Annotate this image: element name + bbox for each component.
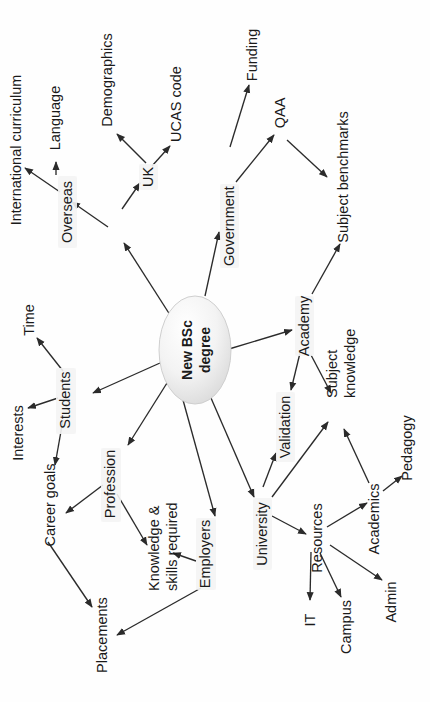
node-admin[interactable]: Admin [383, 581, 399, 622]
node-career-goals-label: Career goals [42, 463, 58, 546]
node-demographics-label: Demographics [99, 33, 115, 127]
node-government[interactable]: Government [220, 184, 239, 268]
edge-university-resources [272, 516, 306, 534]
edge-center-government [205, 232, 219, 296]
node-demographics[interactable]: Demographics [99, 33, 115, 127]
node-subject-knowledge-label-line1: Subject [324, 350, 340, 398]
edge-uk-demographics [117, 134, 146, 163]
node-admin-label: Admin [383, 581, 399, 622]
mindmap-svg: New BSc degree International curriculum … [0, 0, 430, 702]
node-knowledge-skills-label-line2: skills required [164, 502, 180, 591]
edge-government-qaa [236, 135, 274, 182]
node-interests[interactable]: Interests [10, 405, 26, 461]
edge-center-market [124, 243, 172, 318]
edge-university-validation [263, 453, 276, 487]
node-language[interactable]: Language [47, 86, 63, 151]
node-career-goals[interactable]: Career goals [42, 463, 58, 546]
node-academics-label: Academics [366, 484, 382, 555]
node-overseas-label: Overseas [59, 181, 75, 243]
edge-qaa-subject-benchmarks [287, 140, 327, 177]
node-language-label: Language [47, 86, 63, 151]
node-subject-knowledge[interactable]: Subject knowledge [324, 329, 358, 398]
node-subject-benchmarks[interactable]: Subject benchmarks [335, 111, 351, 242]
edge-academics-subject-knowledge [344, 429, 369, 483]
node-employers-label: Employers [197, 520, 213, 589]
node-profession[interactable]: Profession [101, 448, 121, 522]
node-knowledge-skills-label-line1: Knowledge & [146, 505, 162, 591]
node-interests-label: Interests [10, 405, 26, 461]
node-ucas-code[interactable]: UCAS code [168, 66, 184, 142]
node-funding-label: Funding [244, 29, 260, 81]
node-government-label: Government [221, 186, 237, 266]
node-profession-label: Profession [102, 450, 118, 519]
edge-center-profession [128, 383, 167, 445]
node-resources-label: Resources [309, 503, 325, 572]
edge-profession-knowledge-skills [117, 494, 147, 545]
node-academy[interactable]: Academy [295, 295, 314, 356]
edge-center-academy [229, 330, 292, 349]
node-uk-label: UK [140, 167, 156, 187]
edge-overseas-intl-curriculum [25, 168, 60, 192]
node-time[interactable]: Time [21, 304, 37, 336]
node-university-label: University [254, 501, 270, 565]
node-validation-label: Validation [277, 396, 293, 459]
node-campus[interactable]: Campus [338, 600, 354, 654]
mindmap-canvas: New BSc degree International curriculum … [0, 0, 430, 702]
edge-academy-validation [291, 353, 300, 390]
center-node-label-line1: New BSc [179, 320, 195, 380]
node-pedagogy[interactable]: Pedagogy [399, 415, 415, 481]
node-subject-benchmarks-label: Subject benchmarks [335, 111, 351, 242]
edge-uk-ucas-code [152, 146, 170, 166]
node-subject-knowledge-label-line2: knowledge [342, 329, 358, 398]
center-node-new-bsc-degree[interactable]: New BSc degree [159, 296, 231, 404]
node-campus-label: Campus [338, 600, 354, 654]
edge-resources-academics [327, 503, 367, 527]
node-students-label: Students [57, 371, 73, 428]
node-overseas[interactable]: Overseas [58, 176, 77, 248]
node-qaa-label: QAA [272, 97, 288, 128]
center-node-label-line2: degree [197, 327, 213, 373]
node-academics[interactable]: Academics [366, 484, 382, 555]
node-students[interactable]: Students [56, 368, 76, 434]
node-funding[interactable]: Funding [244, 29, 260, 81]
edge-academy-subject-benchmarks [312, 244, 340, 294]
node-uk[interactable]: UK [139, 164, 158, 190]
node-placements[interactable]: Placements [94, 597, 110, 673]
edge-center-employers [183, 400, 215, 516]
node-ucas-code-label: UCAS code [168, 66, 184, 142]
node-university[interactable]: University [253, 498, 272, 570]
edge-students-time [37, 338, 63, 371]
node-pedagogy-label: Pedagogy [399, 415, 415, 481]
node-international-curriculum[interactable]: International curriculum [8, 75, 24, 226]
center-oval-shape [159, 296, 231, 404]
edge-employers-placements [117, 588, 201, 635]
edge-market-overseas [72, 202, 108, 227]
node-resources[interactable]: Resources [309, 503, 325, 572]
edge-profession-career-goals [66, 485, 103, 513]
node-knowledge-skills[interactable]: Knowledge & skills required [146, 502, 180, 591]
edge-students-interests [28, 398, 58, 408]
node-validation[interactable]: Validation [276, 392, 295, 462]
edge-market-uk [122, 183, 140, 209]
node-qaa[interactable]: QAA [272, 97, 288, 128]
edge-career-goals-placements [48, 542, 92, 607]
node-international-curriculum-label: International curriculum [8, 75, 24, 226]
node-academy-label: Academy [296, 295, 312, 356]
node-it-label: IT [302, 613, 318, 626]
node-it[interactable]: IT [302, 613, 318, 626]
node-placements-label: Placements [94, 597, 110, 673]
node-employers[interactable]: Employers [196, 518, 216, 590]
node-time-label: Time [21, 304, 37, 336]
edge-center-university [211, 398, 254, 497]
edge-government-funding [230, 85, 249, 147]
edge-center-students [93, 363, 160, 393]
